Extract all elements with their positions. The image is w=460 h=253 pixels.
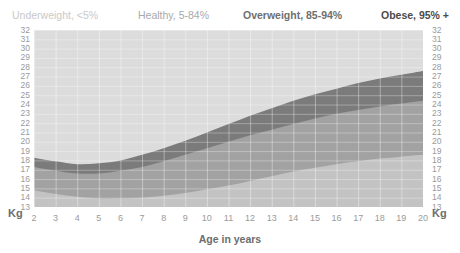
- legend-item-underweight: Underweight, <5%: [12, 6, 98, 24]
- y-tick-right-20: 20: [432, 137, 454, 146]
- x-tick-11: 11: [220, 213, 238, 224]
- y-axis-unit-left: Kg: [8, 207, 32, 219]
- x-tick-16: 16: [328, 213, 346, 224]
- y-tick-left-17: 17: [8, 165, 30, 174]
- x-tick-9: 9: [176, 213, 194, 224]
- x-tick-5: 5: [90, 213, 108, 224]
- x-tick-12: 12: [241, 213, 259, 224]
- x-axis-title: Age in years: [0, 233, 460, 245]
- x-tick-10: 10: [198, 213, 216, 224]
- x-tick-13: 13: [263, 213, 281, 224]
- x-tick-15: 15: [306, 213, 324, 224]
- x-tick-6: 6: [111, 213, 129, 224]
- y-tick-right-14: 14: [432, 193, 454, 202]
- x-tick-20: 20: [414, 213, 432, 224]
- y-tick-right-23: 23: [432, 109, 454, 118]
- x-tick-18: 18: [371, 213, 389, 224]
- y-tick-left-14: 14: [8, 193, 30, 202]
- x-tick-19: 19: [392, 213, 410, 224]
- x-tick-3: 3: [47, 213, 65, 224]
- chart-legend: Underweight, <5% Healthy, 5-84% Overweig…: [0, 6, 460, 24]
- plot-area: [34, 30, 423, 207]
- band-areas: [34, 30, 423, 207]
- legend-item-healthy: Healthy, 5-84%: [138, 6, 209, 24]
- x-tick-4: 4: [68, 213, 86, 224]
- x-tick-14: 14: [284, 213, 302, 224]
- legend-item-overweight: Overweight, 85-94%: [243, 6, 342, 24]
- y-tick-right-17: 17: [432, 165, 454, 174]
- y-axis-unit-right: Kg: [432, 207, 456, 219]
- x-tick-7: 7: [133, 213, 151, 224]
- legend-item-obese: Obese, 95% +: [381, 6, 449, 24]
- bmi-for-age-chart: Underweight, <5% Healthy, 5-84% Overweig…: [0, 0, 460, 253]
- x-tick-8: 8: [155, 213, 173, 224]
- y-tick-left-20: 20: [8, 137, 30, 146]
- y-tick-left-23: 23: [8, 109, 30, 118]
- x-tick-17: 17: [349, 213, 367, 224]
